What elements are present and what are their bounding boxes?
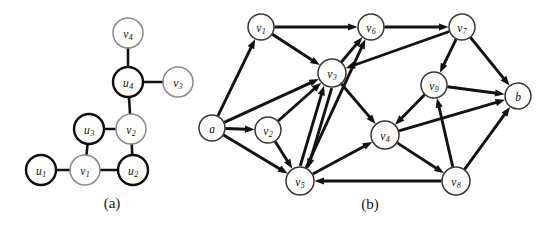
edge-v1-to-v3-shaft [272,34,313,60]
node-v8 [442,167,470,195]
edge-v7-to-v9-shaft [443,39,456,65]
edge-v7-to-b-shaft [471,37,505,79]
edge-v6-to-v7-arrowhead-icon [439,23,449,30]
edge-a-to-v2-arrowhead-icon [245,126,255,133]
node-v2 [116,114,146,144]
edge-v5-to-v3-arrowhead-icon [318,86,325,96]
node-v6 [358,14,384,40]
edge-v4-to-b-arrowhead-icon [495,99,505,106]
edge-v8-to-v9-arrowhead-icon [436,98,443,108]
node-v1 [70,155,100,185]
node-u1 [26,155,56,185]
node-v9 [421,72,447,98]
node-v1 [248,14,274,40]
panel-a-edge-group [55,47,164,170]
node-b [505,83,531,109]
caption-group: (a)(b) [104,195,379,213]
node-v4 [113,18,143,48]
edge-v3-to-v4-shaft [341,84,370,118]
edge-v5-to-v4-arrowhead-icon [362,142,372,150]
edge-v9-to-b-arrowhead-icon [495,89,505,96]
node-v7 [449,14,475,40]
caption-panel-a: (a) [104,195,121,212]
edge-v8-to-v5-arrowhead-icon [315,177,325,184]
edge-v2-to-v5-shaft [275,141,288,162]
edge-v9-to-v4-shaft [401,95,425,119]
node-u2 [118,155,148,185]
edge-a-to-v1-arrowhead-icon [248,39,255,49]
caption-panel-b: (b) [361,196,379,213]
edge-v8-to-b-shaft [465,113,506,169]
node-v2 [255,117,281,143]
edge-v2-to-v3-shaft [278,88,315,121]
edge-a-to-v2-shaft [225,128,246,129]
edge-v7-to-v9-arrowhead-icon [440,63,447,73]
node-u4 [113,67,143,97]
panel-a-node-group: v4u4v3u3v2u1v1u2 [26,18,193,185]
node-a [199,115,225,141]
edge-v9-to-b-shaft [447,87,496,93]
edge-v1-to-v6-arrowhead-icon [348,23,358,30]
panel-b-edge-group [218,23,510,184]
edge-v4-to-v8-shaft [397,143,437,169]
edge-v5-to-v4-shaft [313,146,365,174]
figure-container: v4u4v3u3v2u1v1u2 av1v2v3v4v5v6v7v8v9b (a… [0,0,560,227]
node-v5 [286,167,314,195]
edge-u4-v2 [129,96,130,115]
node-v3 [318,59,346,87]
edge-a-to-v1-shaft [218,46,252,116]
node-v4 [371,121,399,149]
node-u3 [74,114,104,144]
graph-figure-svg: v4u4v3u3v2u1v1u2 av1v2v3v4v5v6v7v8v9b (a… [0,0,560,227]
node-v3 [163,67,193,97]
